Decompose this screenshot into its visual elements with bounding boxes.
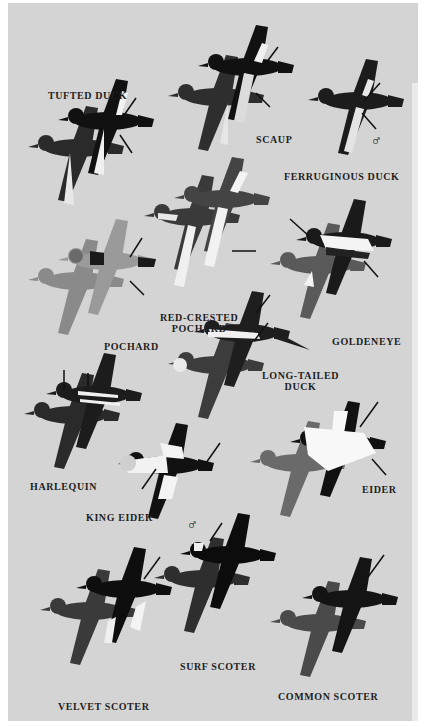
page-edge bbox=[412, 83, 418, 721]
label-line: DUCK bbox=[262, 381, 339, 392]
male-symbol: ♂ bbox=[372, 136, 380, 146]
red-crested-pochard-illustration bbox=[144, 157, 270, 287]
eider-illustration bbox=[250, 401, 386, 517]
velvet-scoter-illustration bbox=[40, 547, 172, 665]
label-red-crested-pochard: RED-CRESTED POCHARD bbox=[160, 312, 238, 334]
king-eider-illustration bbox=[118, 423, 220, 519]
ferruginous-duck-illustration bbox=[308, 59, 404, 155]
label-line: RED-CRESTED bbox=[160, 312, 238, 323]
common-scoter-illustration bbox=[270, 555, 398, 677]
duck-illustrations: ♂ bbox=[8, 3, 418, 721]
label-harlequin: HARLEQUIN bbox=[30, 481, 97, 492]
male-symbol: ♂ bbox=[188, 520, 196, 530]
label-long-tailed-duck: LONG-TAILED DUCK bbox=[262, 370, 339, 392]
label-surf-scoter: SURF SCOTER bbox=[180, 661, 256, 672]
goldeneye-illustration bbox=[270, 199, 392, 319]
label-pochard: POCHARD bbox=[104, 341, 159, 352]
label-common-scoter: COMMON SCOTER bbox=[278, 691, 378, 702]
label-king-eider: KING EIDER bbox=[86, 512, 153, 523]
label-scaup: SCAUP bbox=[256, 134, 292, 145]
label-line: POCHARD bbox=[160, 323, 238, 334]
illustration-plate: ♂ bbox=[8, 3, 418, 721]
pochard-illustration bbox=[28, 219, 156, 335]
harlequin-illustration bbox=[24, 353, 142, 469]
label-line: LONG-TAILED bbox=[262, 370, 339, 381]
long-tailed-duck-illustration bbox=[168, 291, 310, 419]
scaup-illustration bbox=[168, 25, 294, 151]
surf-scoter-illustration bbox=[154, 513, 276, 633]
label-eider: EIDER bbox=[362, 484, 397, 495]
label-velvet-scoter: VELVET SCOTER bbox=[58, 701, 149, 712]
label-goldeneye: GOLDENEYE bbox=[332, 336, 401, 347]
label-ferruginous-duck: FERRUGINOUS DUCK bbox=[284, 171, 399, 182]
label-tufted-duck: TUFTED DUCK bbox=[48, 90, 127, 101]
